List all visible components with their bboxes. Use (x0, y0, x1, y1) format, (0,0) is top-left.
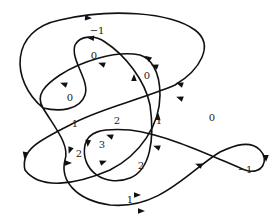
direction-arrow-icon (175, 94, 183, 102)
closed-curve-path (20, 13, 204, 183)
direction-arrow-icon (87, 35, 94, 41)
direction-arrow-icon (134, 192, 141, 198)
oriented-curve (20, 13, 264, 205)
winding-number-label: −1 (238, 164, 253, 175)
direction-arrow-icon (85, 15, 92, 21)
direction-arrow-icon (131, 74, 137, 81)
winding-number-label: 2 (76, 148, 82, 159)
direction-arrow-icon (97, 60, 105, 68)
winding-number-label: 0 (144, 70, 150, 81)
direction-arrow-icon (105, 132, 113, 140)
winding-number-label: 0 (67, 92, 73, 103)
direction-arrow-icon (138, 208, 145, 214)
winding-number-label: 1 (156, 115, 162, 126)
winding-number-label: 3 (99, 139, 105, 150)
direction-arrow-icon (99, 158, 107, 166)
winding-number-label: 0 (91, 50, 97, 61)
winding-number-label: 2 (138, 160, 144, 171)
winding-number-label: 0 (209, 112, 215, 123)
winding-number-label: −1 (90, 25, 105, 36)
winding-number-diagram: −10000121322−11 (0, 0, 275, 224)
winding-number-label: 1 (127, 194, 133, 205)
orientation-arrows (22, 15, 269, 214)
winding-number-label: 2 (114, 115, 120, 126)
direction-arrow-icon (66, 146, 74, 154)
direction-arrow-icon (152, 143, 160, 151)
winding-number-label: 1 (72, 118, 78, 129)
direction-arrow-icon (65, 160, 72, 166)
direction-arrow-icon (59, 80, 67, 88)
